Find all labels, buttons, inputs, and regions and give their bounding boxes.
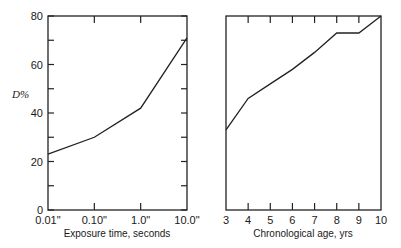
x-tick-label: 7 (312, 214, 318, 226)
x-tick-label: 1.0" (131, 214, 150, 226)
x-tick-label: 10.0" (174, 214, 199, 226)
left-x-axis-title: Exposure time, seconds (64, 228, 171, 239)
y-tick-label: 20 (31, 156, 43, 168)
x-tick-label: 0.10" (82, 214, 107, 226)
x-tick-label: 10 (375, 214, 387, 226)
y-tick-label: 80 (31, 10, 43, 22)
y-tick-label: 60 (31, 59, 43, 71)
left-chart-panel: 020406080 0.01"0.10"1.0"10.0" D% Exposur… (11, 10, 200, 239)
left-data-line (48, 38, 187, 154)
x-tick-label: 4 (245, 214, 251, 226)
right-plot-frame (226, 16, 381, 210)
y-axis-label: D% (11, 88, 29, 100)
y-tick-label: 40 (31, 107, 43, 119)
x-tick-label: 6 (289, 214, 295, 226)
x-tick-label: 9 (356, 214, 362, 226)
right-x-ticks: 345678910 (223, 16, 387, 226)
x-tick-label: 3 (223, 214, 229, 226)
left-plot-frame (48, 16, 187, 210)
right-data-line (226, 16, 381, 130)
left-x-ticks: 0.01"0.10"1.0"10.0" (35, 16, 199, 226)
left-y-ticks: 020406080 (31, 10, 187, 216)
x-tick-label: 0.01" (35, 214, 60, 226)
x-tick-label: 5 (267, 214, 273, 226)
x-tick-label: 8 (334, 214, 340, 226)
right-chart-panel: 345678910 Chronological age, yrs (223, 16, 387, 239)
right-x-axis-title: Chronological age, yrs (253, 228, 353, 239)
chart-figure: 020406080 0.01"0.10"1.0"10.0" D% Exposur… (0, 0, 401, 248)
